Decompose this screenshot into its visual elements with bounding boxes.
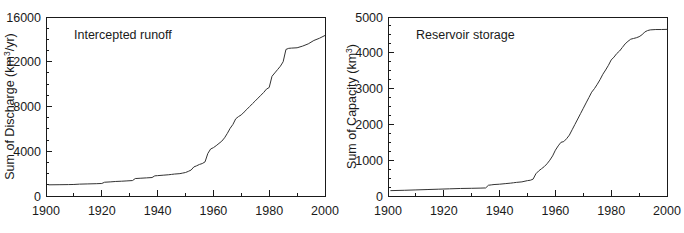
y-tick-label: 16000 [6,11,41,25]
chart-svg-right: 0100020003000400050001900192019401960198… [342,0,684,233]
x-tick-label: 1940 [144,204,172,218]
panel-title-label: Intercepted runoff [74,28,172,42]
x-tick-label: 1900 [32,204,60,218]
x-tick-label: 1940 [486,204,514,218]
y-axis-title-main: Sum of Capacity (km [345,53,359,169]
y-axis-title-tail: /yr) [3,33,17,51]
chart-panel-intercepted-runoff: 0400080001200016000190019201940196019802… [0,0,342,233]
x-tick-label: 1960 [199,204,227,218]
y-tick-label: 3000 [355,82,383,96]
x-tick-label: 2000 [311,204,339,218]
x-tick-label: 1920 [430,204,458,218]
y-axis-title: Sum of Capacity (km3) [344,44,359,169]
plot-frame [46,17,325,196]
x-tick-label: 1980 [597,204,625,218]
x-tick-label: 1900 [374,204,402,218]
x-tick-label: 1980 [255,204,283,218]
y-tick-label: 4000 [355,46,383,60]
y-tick-label: 0 [376,190,383,204]
y-tick-label: 5000 [355,11,383,25]
y-axis-title-tail: ) [345,44,359,48]
x-tick-label: 1960 [541,204,569,218]
x-tick-label: 1920 [88,204,116,218]
y-tick-label: 8000 [13,100,41,114]
figure-container: 0400080001200016000190019201940196019802… [0,0,684,233]
y-tick-label: 4000 [13,145,41,159]
panel-title-label: Reservoir storage [416,28,515,42]
chart-svg-left: 0400080001200016000190019201940196019802… [0,0,342,233]
y-tick-label: 2000 [355,118,383,132]
y-axis-title-main: Sum of Discharge (km [3,56,17,180]
data-series-line [49,35,325,184]
y-tick-label: 0 [34,190,41,204]
data-series-line [391,29,667,190]
chart-panel-reservoir-storage: 0100020003000400050001900192019401960198… [342,0,684,233]
y-tick-label: 1000 [355,154,383,168]
x-tick-label: 2000 [653,204,681,218]
